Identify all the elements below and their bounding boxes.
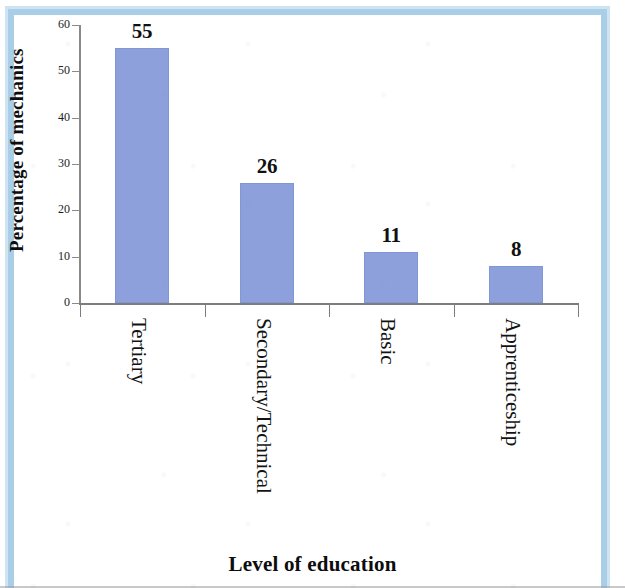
x-axis-tick <box>329 304 330 317</box>
y-axis-tick-label: 30 <box>36 156 70 171</box>
y-axis-tick <box>72 118 79 119</box>
y-axis-tick-label: 0 <box>36 295 70 310</box>
bar-value-label: 26 <box>227 154 307 179</box>
y-axis-line <box>79 25 81 305</box>
y-axis-tick-label: 50 <box>36 63 70 78</box>
y-axis-tick-label: 10 <box>36 249 70 264</box>
x-axis-title: Level of education <box>0 552 625 577</box>
chart-page: 0102030405060 5526118 TertiarySecondary/… <box>0 0 625 588</box>
y-axis-tick <box>72 71 79 72</box>
bar <box>364 252 418 303</box>
bar <box>240 183 294 303</box>
x-axis-category-label: Basic <box>375 318 400 365</box>
bar-value-label: 8 <box>476 237 556 262</box>
y-axis-tick-label: 40 <box>36 110 70 125</box>
y-axis-tick <box>72 257 79 258</box>
y-axis-tick <box>72 303 79 304</box>
bar <box>489 266 543 303</box>
bar <box>115 48 169 303</box>
x-axis-tick <box>80 304 81 317</box>
y-axis-tick <box>72 25 79 26</box>
x-axis-tick <box>454 304 455 317</box>
y-axis-tick-label: 20 <box>36 202 70 217</box>
y-axis-tick-label: 60 <box>36 17 70 32</box>
x-axis-category-label: Secondary/Technical <box>251 318 276 494</box>
y-axis-title: Percentage of mechanics <box>6 48 28 252</box>
y-axis-tick <box>72 210 79 211</box>
x-axis-tick <box>578 304 579 317</box>
x-axis-category-label: Tertiary <box>126 318 151 384</box>
bar-value-label: 55 <box>102 19 182 44</box>
x-axis-tick <box>205 304 206 317</box>
y-axis-tick <box>72 164 79 165</box>
bar-value-label: 11 <box>351 223 431 248</box>
plot-area: 0102030405060 5526118 TertiarySecondary/… <box>0 0 625 588</box>
x-axis-category-label: Apprenticeship <box>500 318 525 446</box>
